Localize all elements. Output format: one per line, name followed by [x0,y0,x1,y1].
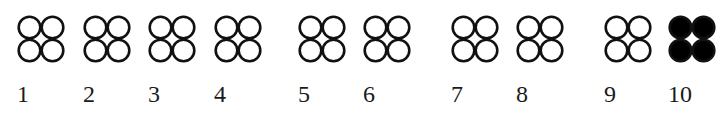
glyph-number-label: 9 [604,82,616,106]
glyph-number-label: 7 [451,82,463,106]
glyph-item-1: 1 [17,0,83,116]
open-four-circle-icon [17,15,65,63]
glyph-item-10: 10 [668,0,723,116]
open-four-circle-icon [148,15,196,63]
glyph-number-label: 3 [148,82,160,106]
open-four-circle-icon [298,15,346,63]
glyph-number-label: 6 [363,82,375,106]
glyph-number-label: 8 [516,82,528,106]
glyph-item-2: 2 [83,0,149,116]
open-four-circle-icon [214,15,262,63]
glyph-item-8: 8 [516,0,582,116]
glyph-item-3: 3 [148,0,214,116]
open-four-circle-icon [363,15,411,63]
glyph-item-7: 7 [451,0,517,116]
filled-four-circle-icon [668,15,716,63]
glyph-item-9: 9 [604,0,670,116]
glyph-number-label: 1 [17,82,29,106]
glyph-item-4: 4 [214,0,280,116]
glyph-number-label: 2 [83,82,95,106]
open-four-circle-icon [516,15,564,63]
glyph-item-6: 6 [363,0,429,116]
glyph-item-5: 5 [298,0,364,116]
glyph-number-label: 5 [298,82,310,106]
glyph-number-label: 4 [214,82,226,106]
glyph-number-label: 10 [668,82,692,106]
open-four-circle-icon [451,15,499,63]
open-four-circle-icon [604,15,652,63]
open-four-circle-icon [83,15,131,63]
